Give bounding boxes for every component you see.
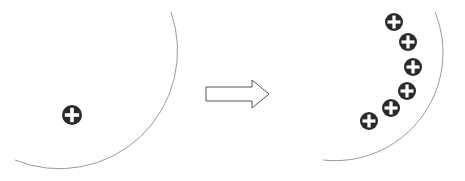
left-charges [62,105,82,125]
right-charges [360,13,422,130]
positive-charge-icon [385,13,403,31]
left-conductor-surface [15,12,178,169]
positive-charge-icon [398,82,416,100]
positive-charge-icon [62,105,82,125]
positive-charge-icon [404,58,422,76]
arrow-right-icon [206,80,269,108]
positive-charge-icon [360,112,378,130]
right-conductor-surface [323,12,443,161]
diagram-canvas [0,0,465,181]
positive-charge-icon [399,33,417,51]
positive-charge-icon [382,99,400,117]
